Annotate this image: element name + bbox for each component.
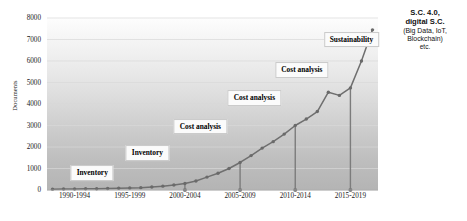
y-axis-tick-label: 3000 — [27, 122, 41, 130]
data-point-marker — [305, 117, 308, 120]
data-point-marker — [183, 182, 186, 185]
chart-annotation-label: Cost analysis — [228, 90, 281, 106]
side-note-line-1: S.C. 4.0, — [386, 8, 464, 17]
data-point-marker — [294, 124, 297, 127]
x-axis-tick-label: 2010-2014 — [280, 192, 311, 200]
y-axis-tick-label: 4000 — [27, 100, 41, 108]
y-axis-tick-label: 2000 — [27, 143, 41, 151]
chart-annotation-label: Inventory — [71, 165, 114, 181]
chart-figure: Documents 800070006000500040003000200010… — [0, 0, 467, 221]
side-note-line-5: etc. — [386, 43, 464, 51]
x-axis-tick-label: 1990-1994 — [59, 192, 90, 200]
chart-annotation-label: Sustainability — [324, 32, 380, 48]
side-note-line-2: digital S.C. — [386, 17, 464, 26]
data-point-marker — [216, 172, 219, 175]
data-point-marker — [128, 186, 131, 189]
data-point-marker — [260, 146, 263, 149]
x-axis-tick-label: 2015-2019 — [335, 192, 366, 200]
data-point-marker — [360, 59, 363, 62]
data-point-marker — [316, 110, 319, 113]
data-point-marker — [238, 161, 241, 164]
data-point-marker — [150, 185, 153, 188]
data-point-marker — [349, 86, 352, 89]
data-point-marker — [271, 140, 274, 143]
data-point-marker — [327, 90, 330, 93]
data-point-marker — [227, 167, 230, 170]
y-axis-tick-label: 7000 — [27, 36, 41, 44]
x-axis-tick-labels: 1990-19941995-19992000-20042005-20092010… — [0, 192, 467, 208]
y-axis-tick-label: 5000 — [27, 79, 41, 87]
data-point-marker — [139, 186, 142, 189]
chart-annotation-label: Inventory — [126, 145, 169, 161]
y-axis-tick-label: 6000 — [27, 57, 41, 65]
data-point-marker — [194, 179, 197, 182]
y-axis-tick-labels: 800070006000500040003000200010000 — [0, 0, 44, 221]
x-axis-tick-label: 2005-2009 — [225, 192, 256, 200]
data-point-marker — [172, 183, 175, 186]
data-point-marker — [161, 184, 164, 187]
side-note: S.C. 4.0, digital S.C. (Big Data, IoT, B… — [386, 8, 464, 51]
data-point-marker — [117, 187, 120, 190]
data-point-marker — [283, 132, 286, 135]
x-axis-tick-label: 2000-2004 — [169, 192, 200, 200]
y-axis-tick-label: 1000 — [27, 165, 41, 173]
x-axis-tick-label: 1995-1999 — [114, 192, 145, 200]
data-point-marker — [205, 175, 208, 178]
data-point-marker — [338, 94, 341, 97]
side-note-line-3: (Big Data, IoT, — [386, 27, 464, 35]
y-axis-tick-label: 8000 — [27, 14, 41, 22]
side-note-line-4: Blockchain) — [386, 35, 464, 43]
chart-annotation-label: Cost analysis — [174, 119, 227, 135]
chart-annotation-label: Cost analysis — [275, 62, 328, 78]
data-point-marker — [249, 154, 252, 157]
